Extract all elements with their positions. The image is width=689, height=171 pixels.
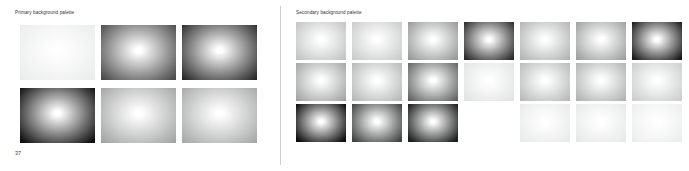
color-swatch[interactable] bbox=[352, 22, 402, 60]
primary-swatch-grid bbox=[20, 25, 257, 143]
primary-palette-title: Primary background palette bbox=[15, 10, 74, 16]
palette-sheet-page: Primary background palette Secondary bac… bbox=[0, 0, 689, 171]
color-swatch[interactable] bbox=[632, 104, 682, 142]
color-swatch[interactable] bbox=[576, 63, 626, 101]
color-swatch[interactable] bbox=[464, 63, 514, 101]
swatch-placeholder bbox=[464, 104, 514, 142]
secondary-swatch-grid bbox=[296, 22, 682, 142]
color-swatch[interactable] bbox=[464, 22, 514, 60]
color-swatch[interactable] bbox=[101, 88, 176, 143]
color-swatch[interactable] bbox=[576, 22, 626, 60]
color-swatch[interactable] bbox=[408, 104, 458, 142]
color-swatch[interactable] bbox=[408, 63, 458, 101]
color-swatch[interactable] bbox=[182, 25, 257, 80]
page-number: 37 bbox=[15, 150, 21, 157]
color-swatch[interactable] bbox=[296, 63, 346, 101]
color-swatch[interactable] bbox=[296, 104, 346, 142]
color-swatch[interactable] bbox=[101, 25, 176, 80]
color-swatch[interactable] bbox=[408, 22, 458, 60]
color-swatch[interactable] bbox=[20, 25, 95, 80]
color-swatch[interactable] bbox=[520, 22, 570, 60]
color-swatch[interactable] bbox=[632, 63, 682, 101]
color-swatch[interactable] bbox=[520, 104, 570, 142]
color-swatch[interactable] bbox=[576, 104, 626, 142]
color-swatch[interactable] bbox=[520, 63, 570, 101]
secondary-palette-title: Secondary background palette bbox=[296, 10, 362, 16]
color-swatch[interactable] bbox=[296, 22, 346, 60]
color-swatch[interactable] bbox=[632, 22, 682, 60]
color-swatch[interactable] bbox=[352, 63, 402, 101]
color-swatch[interactable] bbox=[182, 88, 257, 143]
secondary-palette-panel: Secondary background palette bbox=[281, 0, 689, 171]
primary-palette-panel: Primary background palette bbox=[0, 0, 280, 171]
color-swatch[interactable] bbox=[20, 88, 95, 143]
color-swatch[interactable] bbox=[352, 104, 402, 142]
